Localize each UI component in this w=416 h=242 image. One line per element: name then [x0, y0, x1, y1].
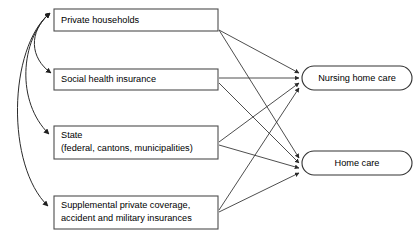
source-label-social-health-insurance: Social health insurance	[61, 74, 156, 84]
diagram-container: Private households Social health insuran…	[0, 0, 416, 242]
source-node-state[interactable]: State (federal, cantons, municipalities)	[54, 126, 218, 159]
edge-social-health-insurance-to-home-care	[219, 83, 299, 163]
source-label-state-line1: State	[61, 130, 82, 140]
source-node-supplemental-private-coverage[interactable]: Supplemental private coverage, accident …	[54, 196, 218, 229]
edge-supplemental-private-coverage-to-nursing-home-care	[219, 88, 299, 210]
edge-private-households-to-home-care	[219, 30, 299, 158]
source-label-state-line2: (federal, cantons, municipalities)	[61, 143, 193, 153]
source-label-supplemental-line2: accident and military insurances	[61, 213, 192, 223]
curve-private-households-to-social-health-insurance	[34, 13, 51, 73]
source-node-social-health-insurance[interactable]: Social health insurance	[54, 69, 218, 90]
source-label-supplemental-line1: Supplemental private coverage,	[61, 200, 190, 210]
target-label-nursing-home-care: Nursing home care	[318, 73, 396, 83]
curve-private-households-to-supplemental-private-coverage	[17, 13, 50, 206]
curved-links-group	[17, 13, 51, 206]
target-node-nursing-home-care[interactable]: Nursing home care	[302, 66, 412, 90]
target-label-home-care: Home care	[335, 158, 380, 168]
source-node-private-households[interactable]: Private households	[54, 9, 218, 31]
source-label-private-households: Private households	[61, 15, 140, 25]
edge-state-to-nursing-home-care	[219, 83, 299, 142]
edge-private-households-to-nursing-home-care	[219, 30, 299, 73]
funding-flow-edges-group	[219, 30, 299, 212]
curve-private-households-to-state	[26, 13, 50, 134]
diagram-canvas: Private households Social health insuran…	[0, 0, 416, 242]
target-node-home-care[interactable]: Home care	[302, 151, 412, 175]
